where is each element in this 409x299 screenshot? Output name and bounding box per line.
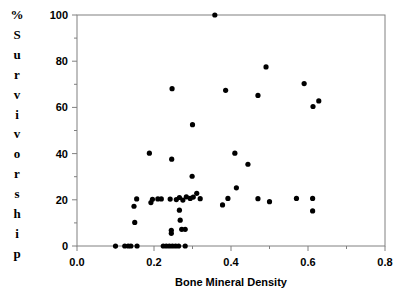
y-axis-tick-label: 80 [56,55,68,67]
data-point [128,243,133,248]
data-point [183,243,188,248]
data-point [169,157,174,162]
data-point [316,98,321,103]
data-point [183,227,188,232]
x-axis-tick-label: 0.8 [377,256,392,268]
data-point [178,218,183,223]
data-point [113,243,118,248]
x-axis-tick-label: 0.6 [300,256,315,268]
y-axis-tick-label: 60 [56,101,68,113]
data-point [190,174,195,179]
data-point [168,197,173,202]
plot-canvas: 0.00.20.40.60.8020406080100 [0,0,409,299]
data-point [132,220,137,225]
data-point [150,197,155,202]
data-point [159,196,164,201]
data-point [225,196,230,201]
data-point [302,81,307,86]
data-point [232,151,237,156]
y-axis-tick-label: 0 [62,240,68,252]
data-point [255,93,260,98]
data-point [223,88,228,93]
data-point [234,185,239,190]
x-axis-tick-label: 0.2 [146,256,161,268]
data-point [310,196,315,201]
data-point [255,196,260,201]
plot-frame [77,15,385,246]
data-point [267,199,272,204]
y-axis-tick-label: 20 [56,194,68,206]
data-point [169,228,174,233]
x-axis-tick-label: 0.0 [69,256,84,268]
data-point [134,196,139,201]
y-axis-tick-label: 100 [50,9,68,21]
data-point [198,196,203,201]
data-point [169,86,174,91]
data-point [263,64,268,69]
scatter-plot-figure: % S u r v i v o r s h i p 0.00.20.40.60.… [0,0,409,299]
data-point [245,162,250,167]
data-point [194,191,199,196]
data-point [147,151,152,156]
data-point [310,208,315,213]
x-axis-title: Bone Mineral Density [77,276,385,288]
data-point [212,12,217,17]
y-axis-tick-label: 40 [56,148,68,160]
data-point [131,204,136,209]
data-point [310,104,315,109]
data-point [190,122,195,127]
data-point [220,202,225,207]
x-axis-tick-label: 0.4 [223,256,239,268]
data-point [176,243,181,248]
data-point [294,196,299,201]
data-point [134,243,139,248]
data-point [177,208,182,213]
